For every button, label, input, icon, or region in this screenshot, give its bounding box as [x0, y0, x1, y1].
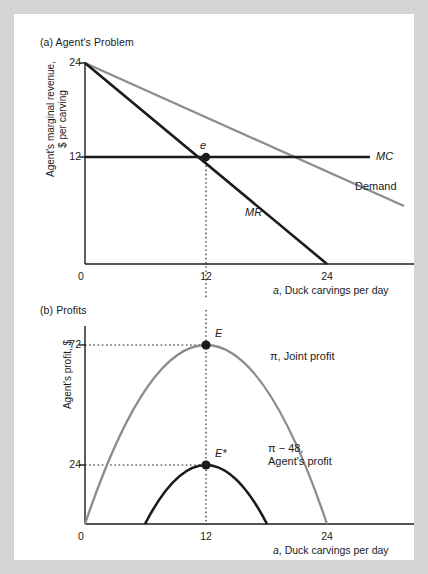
panel-b-x-axis-label: a, Duck carvings per day: [273, 544, 389, 556]
panel-b-ytick-label-72: 72: [65, 338, 81, 350]
point-label-E: E: [215, 327, 222, 339]
figure-page: (a) Agent's Problem Agent's marginal rev…: [0, 0, 428, 574]
panel-b-ytick-label-24: 24: [65, 458, 81, 470]
point-E-star: [201, 460, 210, 469]
point-E: [201, 340, 210, 349]
panel-b-xtick-label-12: 12: [198, 530, 214, 542]
panel-b-xtick-label-0: 0: [73, 530, 89, 542]
panel-b-x-axis-label-rest: , Duck carvings per day: [279, 544, 389, 556]
point-label-E-star: E*: [215, 447, 227, 459]
joint-profit-label: π, Joint profit: [270, 350, 334, 363]
panel-b-xtick-label-24: 24: [319, 530, 335, 542]
joint-profit-curve: [85, 345, 327, 524]
panel-b-plot: [14, 14, 414, 574]
agents-profit-label-line1: π − 48,: [268, 442, 303, 454]
agents-profit-label-line2: Agent's profit: [268, 455, 332, 467]
figure-card: (a) Agent's Problem Agent's marginal rev…: [14, 14, 414, 560]
agents-profit-label: π − 48, Agent's profit: [268, 442, 332, 467]
